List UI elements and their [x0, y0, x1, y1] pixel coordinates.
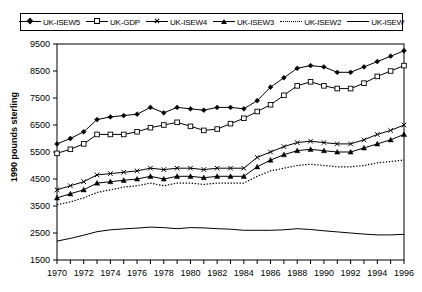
data-point	[348, 70, 353, 75]
data-point	[68, 147, 73, 152]
legend-entry-uk-gdp: UK-GDP	[86, 17, 140, 27]
y-axis-tick-label: 3500	[30, 201, 50, 211]
data-point	[228, 121, 233, 126]
x-axis-tick-label: 1992	[341, 268, 361, 278]
legend-swatch-solid-line-icon	[347, 17, 369, 27]
chart-legend: UK-ISEW5 UK-GDP UK-ISEW4 UK-ISEW3 UK-ISE	[20, 13, 403, 31]
legend-entry-uk-isew: UK-ISEW	[347, 17, 404, 27]
data-point	[161, 123, 166, 128]
data-point	[215, 105, 220, 110]
legend-swatch-dotted-line-icon	[280, 17, 302, 27]
data-point	[108, 115, 113, 120]
legend-label: UK-ISEW4	[170, 18, 207, 27]
chart-root: UK-ISEW5 UK-GDP UK-ISEW4 UK-ISEW3 UK-ISE	[0, 0, 422, 292]
data-point	[81, 142, 86, 147]
series-uk-isew	[57, 227, 404, 241]
data-point	[108, 132, 113, 137]
data-point	[388, 69, 393, 74]
data-point	[335, 70, 340, 75]
data-point	[81, 187, 86, 192]
data-point	[228, 105, 233, 110]
data-point	[375, 132, 380, 137]
x-axis-tick-label: 1972	[74, 268, 94, 278]
data-point	[135, 129, 140, 134]
data-point	[335, 86, 340, 91]
x-axis-tick-label: 1996	[394, 268, 414, 278]
y-axis-tick-label: 8500	[30, 66, 50, 76]
y-axis-tick-label: 4500	[30, 174, 50, 184]
data-point	[401, 132, 406, 137]
x-axis-tick-label: 1990	[314, 268, 334, 278]
x-axis-tick-label: 1984	[234, 268, 254, 278]
data-point	[215, 127, 220, 132]
legend-entry-uk-isew3: UK-ISEW3	[213, 17, 274, 27]
legend-entry-uk-isew2: UK-ISEW2	[280, 17, 341, 27]
legend-label: UK-ISEW3	[237, 18, 274, 27]
data-point	[255, 109, 260, 114]
data-point	[121, 113, 126, 118]
x-axis-tick-label: 1970	[47, 268, 67, 278]
data-point	[121, 132, 126, 137]
data-point	[175, 105, 180, 110]
legend-label: UK-ISEW2	[304, 18, 341, 27]
data-point	[68, 136, 73, 141]
y-axis-tick-label: 9500	[30, 39, 50, 49]
data-point	[322, 84, 327, 89]
data-point	[402, 63, 407, 68]
data-point	[148, 125, 153, 130]
data-point	[308, 63, 313, 68]
data-point	[55, 142, 60, 147]
data-point	[255, 155, 260, 160]
legend-swatch-filled-triangle-icon	[213, 17, 235, 27]
plot-area: 1990 pounds sterling 1500250035004500550…	[0, 36, 422, 292]
data-point	[242, 116, 247, 121]
legend-entry-uk-isew5: UK-ISEW5	[19, 17, 80, 27]
data-point	[95, 132, 100, 137]
data-point	[255, 164, 260, 169]
data-point	[362, 81, 367, 86]
data-point	[268, 150, 273, 155]
x-axis-tick-label: 1988	[287, 268, 307, 278]
data-point	[135, 112, 140, 117]
x-axis-tick-label: 1982	[207, 268, 227, 278]
series-line	[57, 227, 404, 241]
y-axis-tick-label: 1500	[30, 255, 50, 265]
data-point	[388, 54, 393, 59]
legend-label: UK-ISEW	[371, 18, 404, 27]
x-axis-tick-label: 1994	[367, 268, 387, 278]
x-axis-tick-label: 1986	[261, 268, 281, 278]
data-point	[241, 106, 246, 111]
legend-swatch-filled-diamond-icon	[19, 17, 41, 27]
data-point	[202, 128, 207, 133]
x-axis-tick-label: 1978	[154, 268, 174, 278]
data-point	[201, 108, 206, 113]
y-axis-tick-label: 7500	[30, 93, 50, 103]
legend-swatch-cross-icon	[146, 17, 168, 27]
data-point	[348, 86, 353, 91]
legend-label: UK-GDP	[110, 18, 140, 27]
data-point	[375, 59, 380, 64]
data-point	[295, 84, 300, 89]
x-axis-tick-label: 1980	[180, 268, 200, 278]
data-point	[188, 106, 193, 111]
data-point	[362, 65, 367, 70]
x-axis-tick-label: 1976	[127, 268, 147, 278]
data-point	[268, 102, 273, 107]
data-point	[148, 105, 153, 110]
data-point	[175, 120, 180, 125]
series-line	[57, 51, 404, 144]
y-axis-tick-label: 2500	[30, 228, 50, 238]
legend-label: UK-ISEW5	[43, 18, 80, 27]
data-point	[322, 65, 327, 70]
data-point	[308, 80, 313, 85]
y-axis-tick-label: 5500	[30, 147, 50, 157]
data-point	[282, 93, 287, 98]
data-point	[161, 110, 166, 115]
data-point	[402, 48, 407, 53]
y-axis-tick-label: 6500	[30, 120, 50, 130]
legend-entry-uk-isew4: UK-ISEW4	[146, 17, 207, 27]
legend-swatch-open-square-icon	[86, 17, 108, 27]
data-point	[148, 174, 153, 179]
x-axis-tick-label: 1974	[100, 268, 120, 278]
data-point	[375, 74, 380, 79]
